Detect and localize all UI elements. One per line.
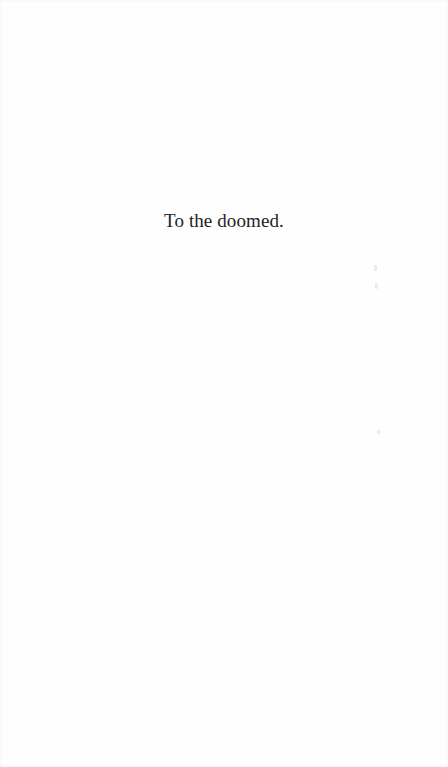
bleed-through-mark	[375, 283, 378, 289]
dedication-text: To the doomed.	[0, 210, 448, 232]
bleed-through-mark	[374, 265, 377, 271]
bleed-through-mark	[377, 430, 380, 434]
book-page: To the doomed.	[0, 0, 448, 767]
